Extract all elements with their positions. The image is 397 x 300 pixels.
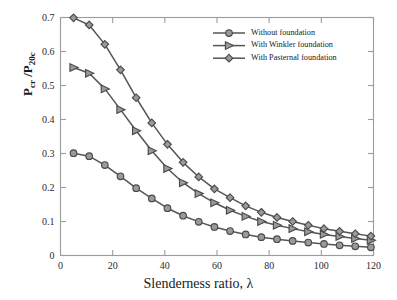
y-tick-label: 0.7 [0,12,55,23]
x-tick-label: 40 [145,260,185,271]
series-line [74,18,371,236]
legend-label-0: Without foundation [251,28,315,37]
data-point-diamond [242,202,250,210]
data-point-circle [242,231,249,238]
data-point-circle [336,242,343,249]
data-point-circle [352,243,359,250]
data-point-triangle-right [258,218,266,226]
data-point-circle [368,244,375,251]
data-point-circle [86,153,93,160]
data-point-circle [211,224,218,231]
y-tick-label: 0.3 [0,148,55,159]
chart-canvas [0,0,397,300]
data-point-circle [133,185,140,192]
data-point-circle [195,219,202,226]
data-point-triangle-right [133,127,141,135]
data-point-circle [274,236,281,243]
data-point-diamond [117,66,125,74]
data-point-circle [321,241,328,248]
x-tick-label: 60 [197,260,237,271]
series-1 [70,64,375,244]
data-point-circle [102,162,109,169]
data-point-diamond [226,194,234,202]
legend-label-1: With Winkler foundation [251,40,333,49]
x-tick-label: 100 [301,260,341,271]
y-tick-label: 0.6 [0,46,55,57]
data-point-triangle-right [289,225,297,233]
legend-label-2: With Pasternal foundation [251,53,337,62]
x-tick-label: 120 [354,260,394,271]
data-point-circle [180,212,187,219]
data-point-diamond [132,94,140,102]
y-tick-label: 0.1 [0,216,55,227]
data-point-triangle-right [70,64,78,72]
data-point-diamond [70,14,78,22]
y-axis-label-mid: /P [20,65,35,80]
x-tick-label: 20 [93,260,133,271]
y-tick-label: 0 [0,250,55,261]
data-point-circle [148,195,155,202]
data-point-circle [164,205,171,212]
data-point-circle [226,30,233,37]
data-point-triangle-right [242,213,250,221]
y-tick-label: 0.5 [0,80,55,91]
x-tick-label: 80 [249,260,289,271]
x-axis-label: Slenderness ratio, λ [0,276,397,292]
data-point-triangle-right [226,206,234,214]
data-point-triangle-right [273,221,281,229]
data-point-diamond [225,54,233,62]
data-point-circle [70,150,77,157]
legend [213,30,245,62]
data-point-triangle-right [211,199,219,207]
data-point-circle [289,238,296,245]
data-point-diamond [258,209,266,217]
data-point-triangle-right [225,42,233,50]
data-point-triangle-right [101,85,109,93]
y-tick-label: 0.4 [0,114,55,125]
series-line [74,67,371,240]
data-point-circle [258,234,265,241]
data-point-diamond [289,218,297,226]
data-point-triangle-right [117,106,125,114]
data-point-circle [227,228,234,235]
x-tick-label: 0 [41,260,81,271]
y-tick-label: 0.2 [0,182,55,193]
data-point-circle [117,173,124,180]
data-point-circle [305,239,312,246]
data-point-diamond [273,214,281,222]
